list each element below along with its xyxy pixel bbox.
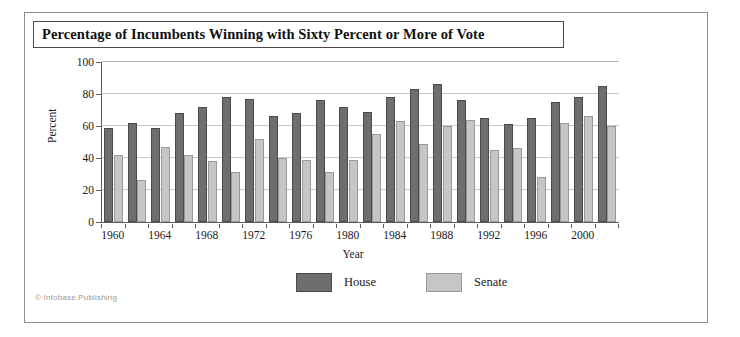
- x-tick-label-1960: 1960: [101, 229, 124, 241]
- bar-house: [551, 102, 560, 222]
- x-tick-label-1980: 1980: [336, 229, 359, 241]
- figure-page: Percentage of Incumbents Winning with Si…: [0, 0, 740, 337]
- bar-senate: [278, 158, 287, 222]
- bar-group: [574, 62, 598, 222]
- x-tick-mark: [148, 224, 149, 228]
- bar-senate: [419, 144, 428, 222]
- bar-house: [457, 100, 466, 222]
- bar-senate: [302, 160, 311, 222]
- bar-group: [269, 62, 293, 222]
- legend: House Senate: [296, 273, 507, 292]
- x-tick-mark: [101, 224, 102, 228]
- bar-senate: [443, 126, 452, 222]
- legend-label-house: House: [344, 275, 376, 290]
- x-tick-mark: [219, 224, 220, 228]
- bar-group: [104, 62, 128, 222]
- bar-group: [551, 62, 575, 222]
- bar-house: [104, 128, 113, 222]
- y-tick-label-100: 100: [64, 56, 94, 68]
- x-tick-mark: [571, 224, 572, 228]
- x-axis-title: Year: [0, 248, 740, 260]
- y-tick-label-40: 40: [64, 152, 94, 164]
- bar-senate: [184, 155, 193, 222]
- bar-senate: [490, 150, 499, 222]
- x-tick-mark: [266, 224, 267, 228]
- bar-house: [433, 84, 442, 222]
- bar-house: [269, 116, 278, 222]
- x-tick-mark: [407, 224, 408, 228]
- bar-house: [363, 112, 372, 222]
- x-tick-label-1972: 1972: [242, 229, 265, 241]
- bar-senate: [396, 121, 405, 222]
- bar-group: [128, 62, 152, 222]
- bar-group: [198, 62, 222, 222]
- x-tick-label-1964: 1964: [148, 229, 171, 241]
- bar-house: [316, 100, 325, 222]
- legend-item-house: House: [296, 273, 376, 292]
- bar-senate: [466, 120, 475, 222]
- bar-house: [386, 97, 395, 222]
- x-tick-mark: [477, 224, 478, 228]
- bar-senate: [325, 172, 334, 222]
- bar-house: [574, 97, 583, 222]
- legend-item-senate: Senate: [426, 273, 507, 292]
- bar-senate: [607, 126, 616, 222]
- bar-group: [504, 62, 528, 222]
- x-tick-mark: [360, 224, 361, 228]
- y-tick-label-0: 0: [64, 216, 94, 228]
- bar-group: [433, 62, 457, 222]
- bar-senate: [137, 180, 146, 222]
- bar-house: [339, 107, 348, 222]
- bar-series-container: [102, 62, 619, 222]
- legend-label-senate: Senate: [474, 275, 507, 290]
- bar-senate: [349, 160, 358, 222]
- bar-group: [598, 62, 622, 222]
- bar-house: [480, 118, 489, 222]
- bar-group: [316, 62, 340, 222]
- bar-senate: [231, 172, 240, 222]
- bar-senate: [513, 148, 522, 222]
- bar-senate: [560, 123, 569, 222]
- x-tick-mark: [242, 224, 243, 228]
- bar-group: [386, 62, 410, 222]
- bar-senate: [114, 155, 123, 222]
- x-tick-mark: [618, 224, 619, 228]
- x-tick-mark: [289, 224, 290, 228]
- x-tick-mark: [548, 224, 549, 228]
- bar-senate: [584, 116, 593, 222]
- x-tick-label-2000: 2000: [571, 229, 594, 241]
- bar-senate: [161, 147, 170, 222]
- bar-house: [504, 124, 513, 222]
- bar-house: [410, 89, 419, 222]
- x-tick-label-1996: 1996: [524, 229, 547, 241]
- bar-group: [151, 62, 175, 222]
- bar-group: [363, 62, 387, 222]
- publisher-credit: © Infobase Publishing: [35, 293, 117, 302]
- x-axis-title-text: Year: [342, 248, 363, 260]
- bar-group: [292, 62, 316, 222]
- bar-house: [222, 97, 231, 222]
- bar-house: [245, 99, 254, 222]
- x-tick-label-1984: 1984: [383, 229, 406, 241]
- bar-house: [175, 113, 184, 222]
- bar-house: [198, 107, 207, 222]
- bar-house: [598, 86, 607, 222]
- bar-group: [527, 62, 551, 222]
- x-tick-label-1992: 1992: [477, 229, 500, 241]
- x-tick-mark: [430, 224, 431, 228]
- bar-group: [457, 62, 481, 222]
- bar-house: [527, 118, 536, 222]
- x-tick-mark: [501, 224, 502, 228]
- y-tick-label-20: 20: [64, 184, 94, 196]
- x-axis-ticks: 1960196419681972197619801984198819921996…: [101, 224, 618, 246]
- y-tick-label-60: 60: [64, 120, 94, 132]
- legend-swatch-house: [296, 273, 332, 292]
- bar-senate: [255, 139, 264, 222]
- x-tick-mark: [313, 224, 314, 228]
- bar-group: [175, 62, 199, 222]
- bar-group: [339, 62, 363, 222]
- x-tick-mark: [172, 224, 173, 228]
- y-axis-title: Percent: [46, 109, 58, 143]
- bar-senate: [372, 134, 381, 222]
- x-tick-mark: [454, 224, 455, 228]
